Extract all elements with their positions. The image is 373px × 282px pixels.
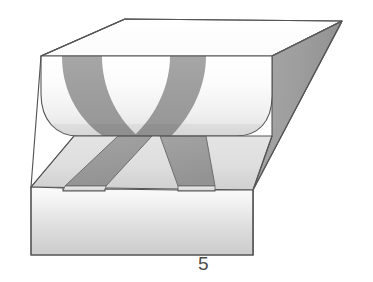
figure-illustration-container: 5 bbox=[0, 0, 373, 282]
front-face-group bbox=[31, 187, 253, 255]
strip-end-face-right bbox=[178, 186, 215, 191]
strip-end-face-left bbox=[63, 186, 106, 191]
cylindrical-groove-group bbox=[41, 56, 272, 147]
figure-number-caption: 5 bbox=[17, 253, 373, 275]
front-face bbox=[31, 187, 253, 255]
technical-drawing-svg bbox=[0, 0, 373, 282]
